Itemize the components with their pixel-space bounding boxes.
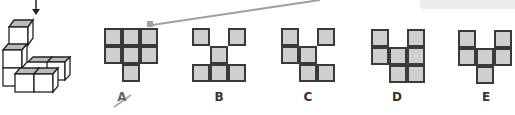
down-arrow-icon (32, 0, 40, 15)
grid-cell (192, 28, 210, 46)
option-label-e: E (476, 90, 496, 104)
grid-cell (122, 28, 140, 46)
annotation-line (147, 0, 320, 27)
diagram-canvas (0, 0, 515, 115)
grid-cell (317, 28, 335, 46)
grid-cell (104, 28, 122, 46)
cube-stack-figure (3, 20, 70, 92)
option-label-d: D (387, 90, 407, 104)
grid-cell (317, 64, 335, 82)
option-label-b: B (209, 90, 229, 104)
grid-cell (299, 64, 317, 82)
grid-cell (494, 48, 512, 66)
grid-cell (407, 29, 425, 47)
grid-cell (281, 46, 299, 64)
grid-cell (389, 65, 407, 83)
grid-cell (210, 64, 228, 82)
grid-cell (458, 30, 476, 48)
grid-cell (371, 29, 389, 47)
grid-cell (104, 46, 122, 64)
grid-cell (371, 47, 389, 65)
grid-cell (407, 47, 425, 65)
grid-cell (407, 65, 425, 83)
grid-cell (140, 28, 158, 46)
option-label-c: C (298, 90, 318, 104)
grid-cell (389, 47, 407, 65)
grid-cell (228, 28, 246, 46)
grid-cell (476, 66, 494, 84)
grid-cell (210, 46, 228, 64)
grid-cell (458, 48, 476, 66)
grid-cell (281, 28, 299, 46)
grid-cell (494, 30, 512, 48)
grid-cell (122, 46, 140, 64)
grid-cell (140, 46, 158, 64)
grid-cell (228, 64, 246, 82)
grid-cell (476, 48, 494, 66)
option-label-a: A (112, 90, 132, 104)
grid-cell (299, 46, 317, 64)
grid-cell (192, 64, 210, 82)
grid-cell (122, 64, 140, 82)
